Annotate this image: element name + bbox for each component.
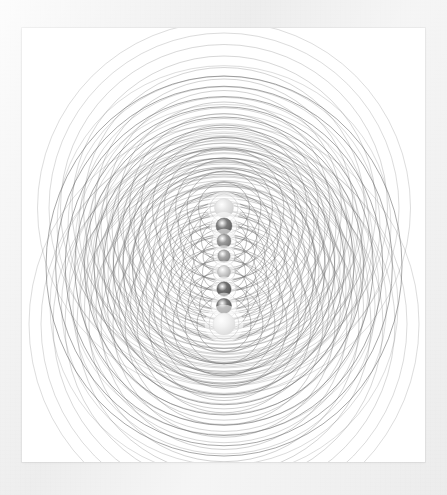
generative-line-drawing xyxy=(22,28,425,462)
nodes-layer xyxy=(205,191,244,343)
drawing-canvas xyxy=(22,28,425,462)
artboard: Concentric Orbit Field generative line d… xyxy=(0,0,447,495)
chain-node xyxy=(213,313,235,335)
chain-node xyxy=(218,250,230,262)
